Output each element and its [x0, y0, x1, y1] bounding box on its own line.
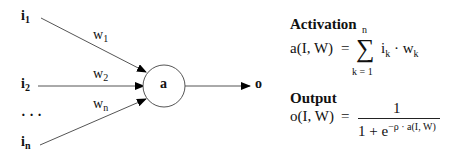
output-label: o — [255, 76, 262, 92]
fraction-bar — [358, 118, 440, 119]
sum-lower-limit: k = 1 — [352, 66, 373, 77]
input-label-2: i2 — [21, 76, 30, 93]
node-label: a — [160, 76, 167, 92]
output-heading: Output — [290, 90, 337, 107]
output-equals: = — [341, 108, 349, 125]
weight-label-2: w2 — [93, 66, 108, 83]
activation-equals: = — [341, 40, 349, 57]
input-label-n: in — [21, 134, 30, 151]
activation-lhs: a(I, W) — [290, 40, 333, 57]
input-label-1: i1 — [21, 8, 30, 25]
output-lhs: o(I, W) — [290, 108, 334, 125]
weight-label-n: wn — [93, 96, 108, 113]
weight-label-1: w1 — [93, 27, 108, 44]
sum-symbol: ∑ — [356, 36, 375, 62]
activation-heading: Activation — [290, 16, 357, 33]
output-denominator: 1 + e−ρ · a(I, W) — [358, 121, 436, 140]
output-numerator: 1 — [393, 100, 401, 117]
activation-term: ik · wk — [381, 40, 419, 59]
input-ellipsis: · · · — [21, 108, 42, 124]
